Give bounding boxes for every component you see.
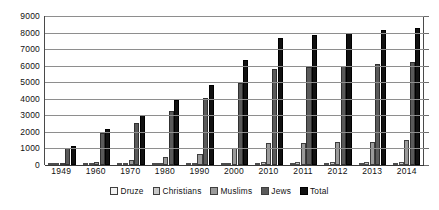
y-tick-label: 7000: [20, 44, 40, 54]
bar-jews-1980[interactable]: [169, 111, 174, 165]
bar-muslims-2000[interactable]: [232, 148, 237, 165]
y-tick-label: 8000: [20, 28, 40, 38]
legend-swatch-icon: [153, 187, 161, 195]
gridline: [45, 99, 424, 100]
gridline: [45, 49, 424, 50]
bar-jews-2014[interactable]: [410, 62, 415, 165]
legend-swatch-icon: [300, 187, 308, 195]
bar-group-2012: [321, 16, 355, 165]
bar-muslims-1980[interactable]: [163, 157, 168, 165]
bar-muslims-2014[interactable]: [404, 140, 409, 165]
bar-total-1970[interactable]: [140, 115, 145, 165]
y-axis-tick-mark: [424, 99, 429, 100]
bar-total-2011[interactable]: [312, 35, 317, 165]
bar-total-1990[interactable]: [209, 85, 214, 165]
gridline: [45, 33, 424, 34]
legend-item-total[interactable]: Total: [300, 186, 329, 196]
gridline: [45, 148, 424, 149]
bar-total-2013[interactable]: [381, 30, 386, 165]
gridline: [45, 66, 424, 67]
legend-label: Total: [310, 186, 329, 196]
x-tick-label: 1970: [113, 166, 148, 182]
bar-group-1970: [114, 16, 148, 165]
x-axis: 1949196019701980199020002010201120122013…: [44, 166, 424, 182]
legend-swatch-icon: [210, 187, 218, 195]
bar-group-2010: [252, 16, 286, 165]
y-tick-label: 4000: [20, 94, 40, 104]
x-tick-label: 2000: [217, 166, 252, 182]
y-tick-label: 6000: [20, 61, 40, 71]
plot-wrapper: 0100020003000400050006000700080009000: [0, 0, 439, 178]
bar-jews-1970[interactable]: [134, 123, 139, 165]
legend-swatch-icon: [261, 187, 269, 195]
y-axis-tick-mark: [424, 66, 429, 67]
gridline: [45, 132, 424, 133]
legend-label: Muslims: [220, 186, 252, 196]
x-tick-label: 2014: [389, 166, 424, 182]
bar-group-1990: [183, 16, 217, 165]
y-tick-label: 1000: [20, 143, 40, 153]
bar-group-2000: [217, 16, 251, 165]
x-tick-label: 2012: [320, 166, 355, 182]
y-tick-label: 9000: [20, 11, 40, 21]
bar-group-1949: [45, 16, 79, 165]
bar-group-1960: [79, 16, 113, 165]
legend-item-muslims[interactable]: Muslims: [210, 186, 252, 196]
y-axis: 0100020003000400050006000700080009000: [0, 0, 40, 178]
chart-legend: DruzeChristiansMuslimsJewsTotal: [0, 186, 439, 196]
bar-jews-2000[interactable]: [238, 83, 243, 165]
y-axis-tick-mark: [424, 82, 429, 83]
bar-group-2014: [390, 16, 424, 165]
y-axis-tick-mark: [424, 49, 429, 50]
y-axis-tick-mark: [424, 165, 429, 166]
y-axis-tick-mark: [424, 132, 429, 133]
bar-muslims-1990[interactable]: [197, 154, 202, 165]
legend-item-jews[interactable]: Jews: [261, 186, 291, 196]
bar-muslims-2011[interactable]: [301, 143, 306, 165]
legend-swatch-icon: [110, 187, 118, 195]
bar-groups: [45, 16, 424, 165]
gridline: [45, 82, 424, 83]
y-axis-tick-mark: [424, 16, 429, 17]
bar-chart: 0100020003000400050006000700080009000 19…: [0, 0, 439, 210]
x-tick-label: 1949: [44, 166, 79, 182]
gridline: [45, 16, 424, 17]
x-tick-label: 2011: [286, 166, 321, 182]
y-tick-label: 5000: [20, 77, 40, 87]
legend-item-christians[interactable]: Christians: [153, 186, 202, 196]
y-axis-tick-mark: [424, 33, 429, 34]
y-tick-label: 0: [35, 160, 40, 170]
legend-item-druze[interactable]: Druze: [110, 186, 143, 196]
bar-muslims-2010[interactable]: [266, 143, 271, 165]
y-tick-label: 3000: [20, 110, 40, 120]
bar-group-2011: [286, 16, 320, 165]
x-tick-label: 1960: [79, 166, 114, 182]
bar-jews-1949[interactable]: [65, 148, 70, 165]
legend-label: Christians: [163, 186, 202, 196]
x-tick-label: 2010: [251, 166, 286, 182]
y-axis-tick-mark: [424, 148, 429, 149]
x-tick-label: 2013: [355, 166, 390, 182]
bar-group-1980: [148, 16, 182, 165]
bar-muslims-2012[interactable]: [335, 142, 340, 165]
bar-total-1960[interactable]: [105, 129, 110, 165]
x-tick-label: 1980: [148, 166, 183, 182]
legend-label: Jews: [271, 186, 291, 196]
gridline: [45, 115, 424, 116]
bar-muslims-2013[interactable]: [370, 142, 375, 166]
bar-jews-2010[interactable]: [272, 69, 277, 165]
y-axis-tick-mark: [424, 115, 429, 116]
bar-group-2013: [355, 16, 389, 165]
bar-total-2010[interactable]: [278, 38, 283, 165]
y-tick-label: 2000: [20, 127, 40, 137]
legend-label: Druze: [120, 186, 143, 196]
x-tick-label: 1990: [182, 166, 217, 182]
plot-area: [44, 16, 424, 165]
